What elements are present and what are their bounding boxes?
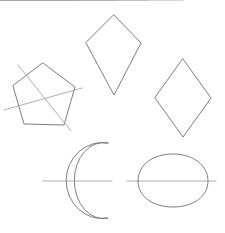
egg-oval-outline xyxy=(138,154,208,207)
upper-kite-outline xyxy=(86,15,141,95)
shape-group-crescent xyxy=(43,143,112,219)
shapes-figure-canvas xyxy=(0,0,225,233)
pentagon-symmetry-line-1 xyxy=(18,65,71,131)
shape-group-pentagon xyxy=(4,63,82,131)
shape-group-upper-kite xyxy=(0,0,141,95)
shape-group-egg xyxy=(127,154,216,207)
right-rhombus-outline xyxy=(155,59,211,137)
geometry-shapes-svg xyxy=(0,0,225,233)
crescent-moon-outline xyxy=(66,143,108,219)
pentagon-outline xyxy=(13,63,75,125)
shape-group-right-rhombus xyxy=(0,0,211,137)
pentagon-symmetry-line-2 xyxy=(4,88,82,110)
